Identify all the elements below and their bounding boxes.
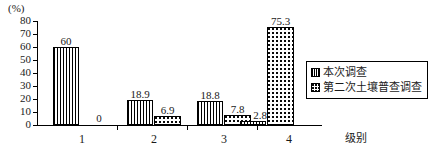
bar-series2-cat4: 75.3 xyxy=(267,27,294,125)
plot-area: 80 70 60 50 40 30 20 10 xyxy=(37,21,322,125)
legend-item-label: 第二次土壤普查调查 xyxy=(323,82,422,94)
legend-swatch-striped-icon xyxy=(311,68,320,77)
y-tick-mark xyxy=(33,86,37,87)
bar-value-label: 7.8 xyxy=(231,103,245,115)
bar-series1-cat4: 2.8 xyxy=(240,121,266,125)
x-tick-label-4: 4 xyxy=(274,133,304,146)
x-tick-label-1: 1 xyxy=(67,133,97,146)
y-tick-mark xyxy=(33,60,37,61)
x-tick-label-3: 3 xyxy=(209,133,239,146)
y-tick-mark xyxy=(33,112,37,113)
chart-legend: 本次调查 第二次土壤普查调查 xyxy=(306,61,428,99)
bar-value-label: 18.8 xyxy=(200,89,219,101)
bar-series2-cat2: 6.9 xyxy=(154,116,181,125)
legend-item-label: 本次调查 xyxy=(323,67,367,79)
x-tick-mark xyxy=(257,126,258,130)
bar-value-label: 2.8 xyxy=(253,109,267,121)
x-tick-mark xyxy=(117,126,118,130)
y-tick-label: 20 xyxy=(20,92,31,104)
y-tick-mark xyxy=(33,99,37,100)
y-tick-label: 80 xyxy=(20,14,31,26)
bar-value-label: 75.3 xyxy=(271,15,290,27)
y-tick-label: 10 xyxy=(20,105,31,117)
x-axis-line xyxy=(37,125,322,126)
bar-value-label: 0 xyxy=(96,112,102,124)
x-axis-title: 级别 xyxy=(345,133,367,145)
x-tick-mark xyxy=(187,126,188,130)
y-tick-label: 70 xyxy=(20,27,31,39)
y-tick-label: 60 xyxy=(20,40,31,52)
y-tick-mark xyxy=(33,73,37,74)
bar-value-label: 18.9 xyxy=(130,88,149,100)
y-tick-mark xyxy=(33,47,37,48)
legend-item-0: 本次调查 xyxy=(311,65,422,80)
bar-chart: (%) 80 70 60 50 40 30 20 xyxy=(0,0,440,166)
y-axis-line xyxy=(37,21,38,125)
y-tick-mark xyxy=(33,34,37,35)
bar-series1-cat2: 18.9 xyxy=(127,100,153,125)
y-tick-mark xyxy=(33,21,37,22)
bar-value-label: 6.9 xyxy=(161,104,175,116)
legend-swatch-dotted-icon xyxy=(311,83,320,92)
y-tick-label: 0 xyxy=(26,118,32,130)
y-tick-label: 40 xyxy=(20,66,31,78)
y-tick-label: 30 xyxy=(20,79,31,91)
bar-series1-cat1: 60 xyxy=(53,47,79,125)
bar-series1-cat3: 18.8 xyxy=(197,101,223,125)
y-axis-unit-label: (%) xyxy=(8,2,25,14)
y-tick-mark xyxy=(33,125,37,126)
legend-item-1: 第二次土壤普查调查 xyxy=(311,80,422,95)
y-tick-label: 50 xyxy=(20,53,31,65)
bar-value-label: 60 xyxy=(61,35,72,47)
x-tick-label-2: 2 xyxy=(139,133,169,146)
